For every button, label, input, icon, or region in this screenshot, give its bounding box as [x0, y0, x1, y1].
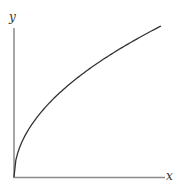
- x-axis-label: x: [166, 169, 173, 183]
- y-axis-label: y: [8, 10, 16, 24]
- sqrt-curve: [14, 26, 161, 177]
- chart-canvas: y x: [0, 0, 182, 187]
